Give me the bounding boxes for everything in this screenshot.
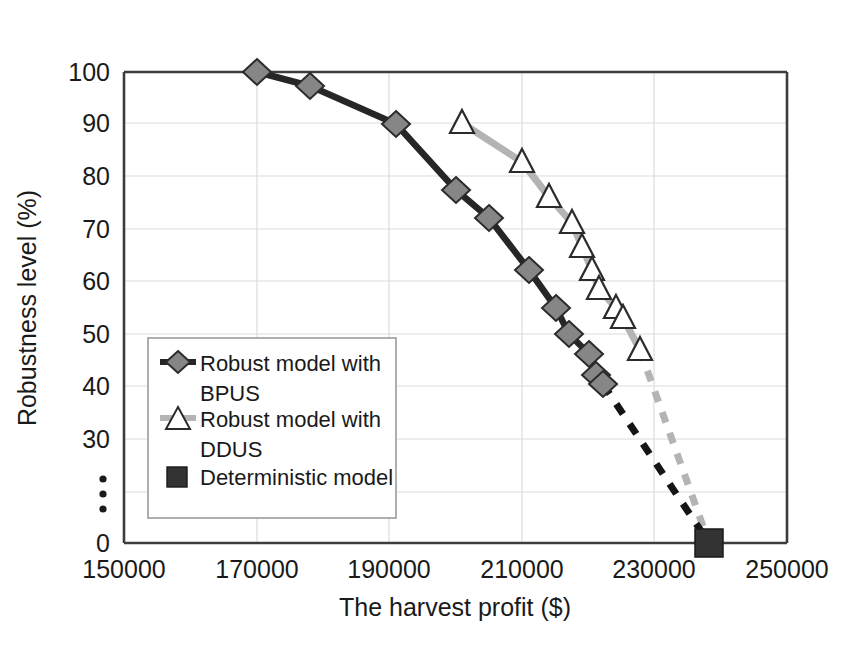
y-tick-2: 80 — [82, 162, 110, 190]
legend-label-ddus-line1: Robust model with — [200, 407, 381, 432]
y-tick-4: 60 — [82, 267, 110, 295]
legend-label-bpus-line1: Robust model with — [200, 351, 381, 376]
y-tick-1: 90 — [82, 109, 110, 137]
y-axis-tick-labels: 100 90 80 70 60 50 40 30 0 — [68, 58, 110, 557]
legend-label-bpus-line2: BPUS — [200, 381, 260, 406]
legend-item-deterministic[interactable]: Deterministic model — [167, 465, 393, 490]
chart-figure: 100 90 80 70 60 50 40 30 0 150000 170000… — [0, 0, 845, 664]
x-axis-title: The harvest profit ($) — [339, 593, 571, 621]
square-marker-icon — [167, 467, 187, 487]
y-axis-title: Robustness level (%) — [13, 190, 41, 426]
legend-label-deterministic: Deterministic model — [200, 465, 393, 490]
y-axis-break-ellipsis-icon — [99, 475, 106, 512]
chart-svg: 100 90 80 70 60 50 40 30 0 150000 170000… — [0, 0, 845, 664]
x-tick-3: 210000 — [480, 555, 563, 583]
x-axis-tick-labels: 150000 170000 190000 210000 230000 25000… — [82, 555, 828, 583]
chart-legend: Robust model with BPUS Robust model with… — [148, 338, 396, 518]
x-tick-0: 150000 — [82, 555, 165, 583]
y-tick-7: 30 — [82, 425, 110, 453]
legend-label-ddus-line2: DDUS — [200, 437, 262, 462]
x-tick-4: 230000 — [612, 555, 695, 583]
y-tick-0: 100 — [68, 58, 110, 86]
deterministic-marker — [695, 529, 723, 557]
x-tick-2: 190000 — [347, 555, 430, 583]
y-tick-5: 50 — [82, 320, 110, 348]
y-tick-9: 0 — [96, 529, 110, 557]
x-tick-5: 250000 — [745, 555, 828, 583]
y-tick-3: 70 — [82, 215, 110, 243]
series-deterministic — [695, 529, 723, 557]
x-tick-1: 170000 — [215, 555, 298, 583]
y-tick-6: 40 — [82, 372, 110, 400]
